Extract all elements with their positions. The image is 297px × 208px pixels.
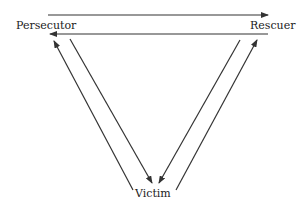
node-rescuer: Rescuer [250,19,295,32]
arrow-persecutor-to-victim [70,39,152,183]
node-victim: Victim [135,187,171,200]
drama-triangle-diagram: Persecutor Rescuer Victim [0,0,297,208]
arrow-rescuer-to-victim [159,40,240,183]
arrow-victim-to-rescuer [176,40,257,190]
node-persecutor: Persecutor [16,19,76,32]
arrow-victim-to-persecutor [54,41,133,190]
